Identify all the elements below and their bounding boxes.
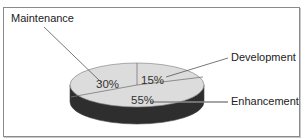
leader-maintenance [44, 27, 102, 83]
label-development: Development [231, 51, 296, 63]
value-development: 15% [141, 74, 164, 86]
value-maintenance: 30% [96, 78, 119, 90]
label-enhancement: Enhancement [231, 95, 299, 107]
value-enhancement: 55% [131, 94, 154, 106]
label-maintenance: Maintenance [11, 12, 74, 24]
